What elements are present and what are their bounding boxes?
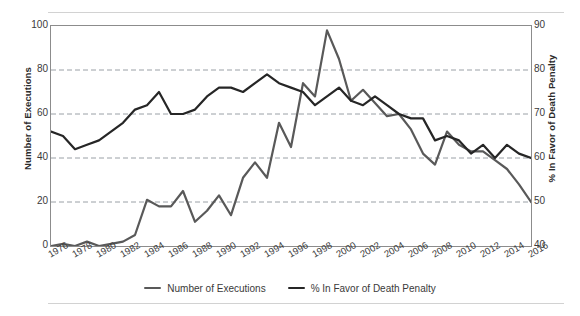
x-axis-ticks: 1976197819801982198419861988199019921994… <box>50 248 532 282</box>
legend-item[interactable]: Number of Executions <box>144 283 265 294</box>
y-tick-right-90: 90 <box>534 20 574 30</box>
y-tick-right-60: 60 <box>534 152 574 162</box>
legend-label: % In Favor of Death Penalty <box>311 283 436 294</box>
chart-figure: Number of Executions % In Favor of Death… <box>0 0 580 316</box>
y-tick-left-20: 20 <box>8 196 48 206</box>
series-canvas <box>51 26 531 246</box>
y-tick-left-80: 80 <box>8 64 48 74</box>
plot-area <box>50 25 532 247</box>
y-tick-right-50: 50 <box>534 196 574 206</box>
series-line-number-of-executions <box>51 30 531 246</box>
y-tick-left-0: 0 <box>8 240 48 250</box>
y-axis-left-ticks: 100806040200 <box>8 0 48 316</box>
top-divider <box>48 12 564 13</box>
y-tick-right-80: 80 <box>534 64 574 74</box>
y-tick-right-70: 70 <box>534 108 574 118</box>
chart-legend: Number of Executions% In Favor of Death … <box>0 280 580 296</box>
legend-label: Number of Executions <box>167 283 265 294</box>
y-tick-left-100: 100 <box>8 20 48 30</box>
legend-swatch-icon <box>144 287 161 290</box>
y-tick-left-60: 60 <box>8 108 48 118</box>
bottom-divider <box>48 303 564 304</box>
y-tick-left-40: 40 <box>8 152 48 162</box>
y-axis-right-ticks: 908070605040 <box>534 0 574 316</box>
legend-item[interactable]: % In Favor of Death Penalty <box>288 283 436 294</box>
legend-swatch-icon <box>288 287 305 290</box>
